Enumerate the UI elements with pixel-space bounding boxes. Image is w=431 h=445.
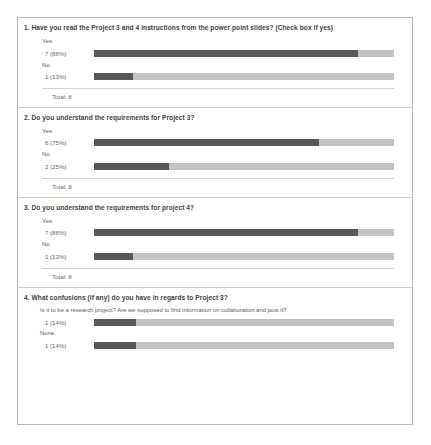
question-block-2: 2. Do you understand the requirements fo… (18, 108, 412, 197)
answer-count: 6 (75%) (26, 139, 94, 146)
total-label: Total: 8 (26, 269, 404, 287)
question-block-1: 1. Have you read the Project 3 and 4 ins… (18, 18, 412, 107)
bar-track (94, 163, 394, 170)
answer-row-group: No 1 (13%) (26, 240, 404, 262)
question-title: 4. What confusions (if any) do you have … (18, 288, 412, 307)
question-block-3: 3. Do you understand the requirements fo… (18, 198, 412, 287)
answer-count: 7 (88%) (26, 229, 94, 236)
answer-row-group: None. 1 (14%) (26, 330, 404, 352)
answer-count: 1 (13%) (26, 73, 94, 80)
answer-bar-row: 7 (88%) (26, 226, 404, 239)
total-label: Total: 8 (26, 179, 404, 197)
answer-bar-row: 1 (13%) (26, 70, 404, 83)
answer-label: Yes (26, 217, 404, 226)
question-block-4: 4. What confusions (if any) do you have … (18, 288, 412, 352)
answer-label: Yes (26, 37, 404, 46)
answer-bar-row: 6 (75%) (26, 136, 404, 149)
survey-results-page: 1. Have you read the Project 3 and 4 ins… (17, 17, 413, 425)
bar-fill (94, 342, 136, 349)
bar-fill (94, 50, 358, 57)
answer-bar-row: 1 (14%) (26, 339, 404, 352)
answer-row-group: Yes 6 (75%) (26, 127, 404, 149)
bar-fill (94, 73, 133, 80)
answer-label: Yes (26, 127, 404, 136)
bar-fill (94, 319, 136, 326)
question-title: 2. Do you understand the requirements fo… (18, 108, 412, 127)
answer-bar-row: 2 (25%) (26, 160, 404, 173)
answer-row-group: Yes 7 (88%) (26, 217, 404, 239)
answer-count: 2 (25%) (26, 163, 94, 170)
answer-bar-row: 7 (88%) (26, 47, 404, 60)
answer-label: Is it to be a research project? Are we s… (26, 307, 404, 316)
answer-row-group: Is it to be a research project? Are we s… (26, 307, 404, 329)
survey-results-list: 1. Have you read the Project 3 and 4 ins… (18, 18, 412, 352)
answer-label: No (26, 240, 404, 249)
bar-fill (94, 139, 319, 146)
bar-track (94, 342, 394, 349)
answer-row-group: No 2 (25%) (26, 150, 404, 172)
answer-count: 7 (88%) (26, 50, 94, 57)
bar-track (94, 73, 394, 80)
bar-fill (94, 229, 358, 236)
bar-track (94, 319, 394, 326)
answer-row-group: No 1 (13%) (26, 61, 404, 83)
answer-count: 1 (13%) (26, 253, 94, 260)
total-label: Total: 8 (26, 89, 404, 107)
bar-fill (94, 163, 169, 170)
answer-bar-row: 1 (13%) (26, 250, 404, 263)
answer-count: 1 (14%) (26, 319, 94, 326)
answer-row-group: Yes 7 (88%) (26, 37, 404, 59)
answer-label: No (26, 61, 404, 70)
answer-label: None. (26, 330, 404, 339)
question-title: 3. Do you understand the requirements fo… (18, 198, 412, 217)
question-title: 1. Have you read the Project 3 and 4 ins… (18, 18, 412, 37)
bar-fill (94, 253, 133, 260)
bar-track (94, 139, 394, 146)
question-answers: Yes 7 (88%) No 1 (13%) (18, 37, 412, 107)
answer-bar-row: 1 (14%) (26, 316, 404, 329)
question-answers: Yes 7 (88%) No 1 (13%) (18, 217, 412, 287)
bar-track (94, 229, 394, 236)
answer-count: 1 (14%) (26, 342, 94, 349)
answer-label: No (26, 150, 404, 159)
question-answers: Yes 6 (75%) No 2 (25%) (18, 127, 412, 197)
bar-track (94, 50, 394, 57)
bar-track (94, 253, 394, 260)
question-answers: Is it to be a research project? Are we s… (18, 307, 412, 352)
